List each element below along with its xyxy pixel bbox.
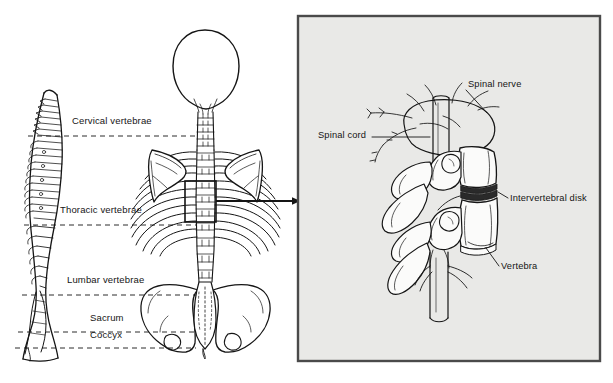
posterior-skeleton-view bbox=[131, 30, 280, 359]
anatomy-figure: Cervical vertebrae Thoracic vertebrae Lu… bbox=[0, 0, 613, 383]
label-sacrum: Sacrum bbox=[90, 313, 124, 323]
label-vertebra: Vertebra bbox=[501, 262, 537, 271]
lateral-spine-view bbox=[23, 90, 62, 361]
label-coccyx: Coccyx bbox=[90, 330, 122, 340]
label-spinal-nerve: Spinal nerve bbox=[468, 80, 521, 89]
label-intervertebral-disk: Intervertebral disk bbox=[510, 194, 587, 203]
label-cervical-vertebrae: Cervical vertebrae bbox=[72, 116, 152, 126]
label-lumbar-vertebrae: Lumbar vertebrae bbox=[67, 275, 144, 285]
label-thoracic-vertebrae: Thoracic vertebrae bbox=[60, 205, 142, 215]
figure-canvas bbox=[0, 0, 613, 383]
label-spinal-cord: Spinal cord bbox=[318, 131, 366, 140]
lower-articular-process bbox=[439, 211, 459, 231]
upper-articular-process bbox=[442, 154, 460, 173]
